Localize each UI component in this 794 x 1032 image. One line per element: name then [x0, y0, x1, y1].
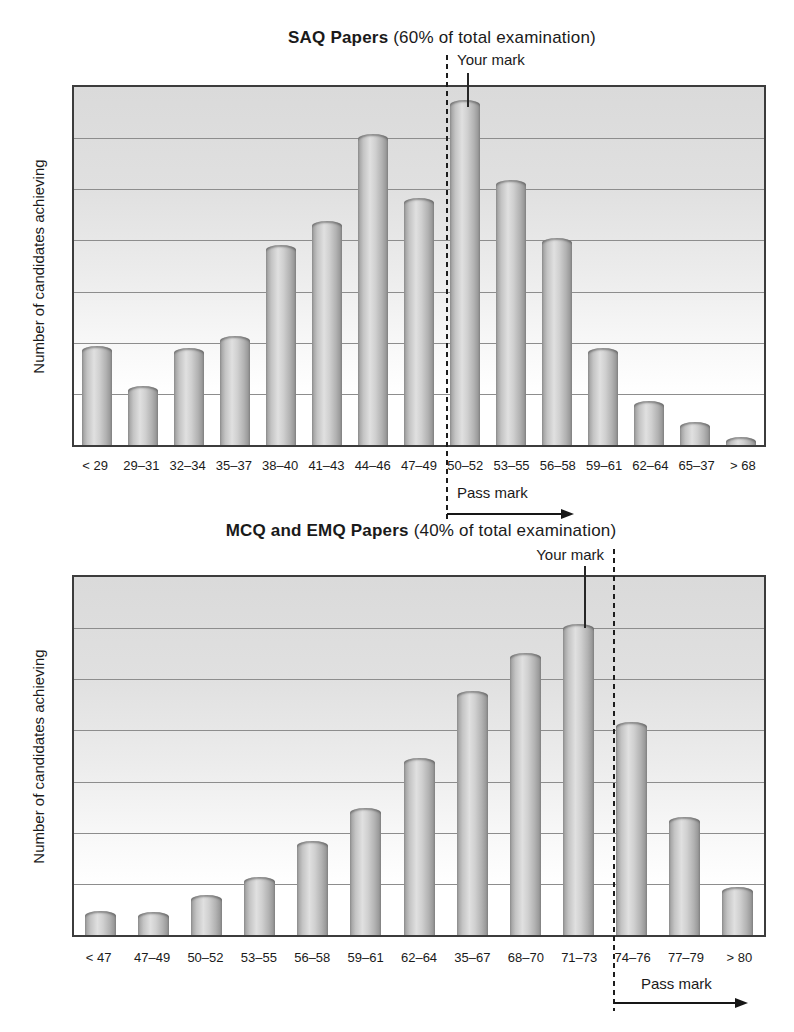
chart-title-mcq-bold: MCQ and EMQ Papers — [226, 521, 409, 540]
bar-41–43 — [312, 221, 342, 445]
your-mark-pointer-mcq — [584, 566, 586, 628]
x-tick-label: 53–55 — [232, 950, 285, 965]
bar-35–37 — [220, 336, 250, 445]
x-tick-label: 32–34 — [165, 458, 211, 473]
bar-77–79 — [669, 817, 700, 935]
bar-59–61 — [350, 808, 381, 935]
x-tick-label: 53–55 — [488, 458, 534, 473]
your-mark-label-saq: Your mark — [457, 51, 525, 68]
pass-mark-dashed-line-mcq — [613, 549, 615, 1011]
bar-slot — [442, 87, 488, 445]
bar-slot — [658, 577, 711, 935]
x-tick-label: 71–73 — [553, 950, 606, 965]
pass-mark-arrow-mcq — [614, 998, 748, 1008]
x-tick-label: > 80 — [713, 950, 766, 965]
x-axis-labels-saq: < 2929–3132–3435–3738–4041–4344–4647–495… — [72, 458, 766, 473]
bar-74–76 — [616, 722, 647, 935]
x-tick-label: 47–49 — [125, 950, 178, 965]
bar-slot — [180, 577, 233, 935]
x-tick-label: 38–40 — [257, 458, 303, 473]
bar-47–49 — [404, 198, 434, 445]
bar-slot — [534, 87, 580, 445]
bar-slot — [499, 577, 552, 935]
bar-slot — [74, 577, 127, 935]
bar-slot — [446, 577, 499, 935]
bar-slot — [580, 87, 626, 445]
x-tick-label: 41–43 — [303, 458, 349, 473]
bar-slot — [552, 577, 605, 935]
bar-slot — [396, 87, 442, 445]
bar-68–70 — [510, 653, 541, 935]
your-mark-pointer-saq — [467, 73, 469, 107]
bar-56–58 — [297, 841, 328, 935]
x-axis-labels-mcq: < 4747–4950–5253–5556–5859–6162–6435–676… — [72, 950, 766, 965]
bar-71–73 — [563, 624, 594, 935]
bar-62–64 — [404, 758, 435, 935]
x-tick-label: 68–70 — [499, 950, 552, 965]
x-tick-label: < 47 — [72, 950, 125, 965]
bar-47–49 — [138, 912, 169, 935]
bar-slot — [626, 87, 672, 445]
bars-row — [74, 577, 764, 935]
bar-< 29 — [82, 346, 112, 445]
bar-slot — [127, 577, 180, 935]
pass-mark-arrow-head-saq — [561, 509, 574, 519]
x-tick-label: 47–49 — [396, 458, 442, 473]
x-tick-label: 35–37 — [211, 458, 257, 473]
x-tick-label: 59–61 — [581, 458, 627, 473]
y-axis-label-mcq: Number of candidates achieving — [30, 576, 47, 938]
bar-> 68 — [726, 437, 756, 445]
bars-row — [74, 87, 764, 445]
bar-35–67 — [457, 691, 488, 935]
bar-slot — [350, 87, 396, 445]
bar-slot — [120, 87, 166, 445]
bar-32–34 — [174, 348, 204, 445]
bar-slot — [286, 577, 339, 935]
x-tick-label: 50–52 — [442, 458, 488, 473]
x-tick-label: 29–31 — [118, 458, 164, 473]
chart-title-saq-suffix: (60% of total examination) — [388, 28, 596, 47]
chart-title-saq: SAQ Papers (60% of total examination) — [288, 28, 596, 48]
x-tick-label: 65–37 — [673, 458, 719, 473]
pass-mark-arrow-head-mcq — [735, 998, 748, 1008]
bar-slot — [74, 87, 120, 445]
pass-mark-dashed-line-saq — [446, 55, 448, 521]
pass-mark-arrow-line-mcq — [614, 1002, 739, 1004]
bar-slot — [488, 87, 534, 445]
bar-> 80 — [722, 887, 753, 935]
x-tick-label: 59–61 — [339, 950, 392, 965]
bar-59–61 — [588, 348, 618, 445]
bar-44–46 — [358, 134, 388, 445]
chart-title-mcq-suffix: (40% of total examination) — [409, 521, 617, 540]
pass-mark-arrow-line-saq — [447, 513, 565, 515]
bar-slot — [212, 87, 258, 445]
bar-slot — [339, 577, 392, 935]
x-tick-label: 56–58 — [535, 458, 581, 473]
x-tick-label: 77–79 — [659, 950, 712, 965]
bar-56–58 — [542, 238, 572, 445]
x-tick-label: < 29 — [72, 458, 118, 473]
bar-slot — [672, 87, 718, 445]
x-tick-label: 50–52 — [179, 950, 232, 965]
bar-slot — [233, 577, 286, 935]
chart-title-mcq: MCQ and EMQ Papers (40% of total examina… — [226, 521, 617, 541]
plot-area-mcq — [72, 575, 766, 937]
x-tick-label: 62–64 — [627, 458, 673, 473]
bar-< 47 — [85, 911, 116, 935]
pass-mark-arrow-saq — [447, 509, 574, 519]
bar-53–55 — [496, 180, 526, 445]
pass-mark-label-mcq: Pass mark — [641, 975, 712, 992]
bar-62–64 — [634, 401, 664, 445]
x-tick-label: 44–46 — [350, 458, 396, 473]
figure-exam-histograms: SAQ Papers (60% of total examination) Nu… — [0, 0, 794, 1032]
bar-50–52 — [450, 100, 480, 445]
x-tick-label: 74–76 — [606, 950, 659, 965]
pass-mark-label-saq: Pass mark — [457, 484, 528, 501]
bar-slot — [166, 87, 212, 445]
x-tick-label: 62–64 — [392, 950, 445, 965]
bar-slot — [718, 87, 764, 445]
bar-29–31 — [128, 386, 158, 445]
bar-65–37 — [680, 422, 710, 445]
bar-53–55 — [244, 877, 275, 935]
x-tick-label: 56–58 — [286, 950, 339, 965]
